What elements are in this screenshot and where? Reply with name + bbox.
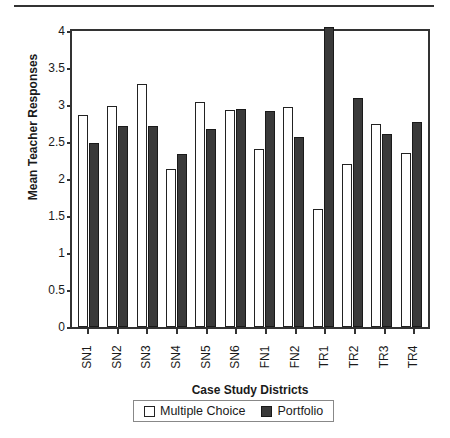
bar-sn2-pf xyxy=(118,126,128,327)
y-axis-tick-2.5: 2.5 xyxy=(48,136,72,148)
bar-group-sn1 xyxy=(74,31,103,327)
bar-group-fn2 xyxy=(279,31,308,327)
y-axis-tick-1: 1 xyxy=(58,247,72,259)
legend-swatch-white-square-icon xyxy=(144,406,155,417)
x-tick-cell-sn4: SN4 xyxy=(161,331,191,383)
x-axis-label-tr4: TR4 xyxy=(406,346,420,369)
x-axis-label-tr3: TR3 xyxy=(377,346,391,369)
x-tickmark-tr4 xyxy=(413,329,415,334)
x-tick-cell-sn5: SN5 xyxy=(191,331,221,383)
x-axis-label-sn5: SN5 xyxy=(199,345,213,368)
x-tickmark-fn2 xyxy=(295,329,297,334)
bar-group-tr3 xyxy=(367,31,396,327)
x-axis-label-sn6: SN6 xyxy=(228,345,242,368)
x-tick-cell-tr1: TR1 xyxy=(309,331,339,383)
y-axis-tick-3.5: 3.5 xyxy=(48,62,72,74)
bar-group-tr2 xyxy=(338,31,367,327)
top-divider-rule xyxy=(14,5,434,7)
x-tickmark-sn2 xyxy=(117,329,119,334)
x-tickmark-sn1 xyxy=(87,329,89,334)
bar-fn1-pf xyxy=(265,111,275,327)
x-tickmark-tr1 xyxy=(324,329,326,334)
legend-label-portfolio: Portfolio xyxy=(277,404,323,418)
y-axis-title: Mean Teacher Responses xyxy=(26,32,40,222)
x-axis-label-sn4: SN4 xyxy=(169,345,183,368)
x-tickmark-sn3 xyxy=(146,329,148,334)
bar-group-tr1 xyxy=(309,31,338,327)
chart-plot-area: 00.511.522.533.54 xyxy=(70,29,430,329)
x-tick-cell-tr4: TR4 xyxy=(398,331,428,383)
legend-swatch-dark-square-icon xyxy=(261,406,272,417)
bar-group-tr4 xyxy=(397,31,426,327)
y-axis-tick-4: 4 xyxy=(58,25,72,37)
x-tick-cell-sn3: SN3 xyxy=(131,331,161,383)
bar-group-sn3 xyxy=(133,31,162,327)
x-axis-label-sn1: SN1 xyxy=(80,345,94,368)
y-axis-tick-1.5: 1.5 xyxy=(48,210,72,222)
bar-tr1-pf xyxy=(324,27,334,327)
bar-fn2-mc xyxy=(283,107,293,327)
x-tick-cell-sn6: SN6 xyxy=(220,331,250,383)
bar-sn3-mc xyxy=(137,84,147,327)
x-tick-cell-sn2: SN2 xyxy=(102,331,132,383)
bar-tr3-mc xyxy=(371,124,381,327)
x-axis-label-sn3: SN3 xyxy=(139,345,153,368)
bar-sn5-pf xyxy=(206,129,216,327)
bar-tr1-mc xyxy=(313,209,323,327)
x-axis-label-fn1: FN1 xyxy=(258,346,272,369)
y-axis-tick-0.5: 0.5 xyxy=(48,284,72,296)
bar-group-sn6 xyxy=(221,31,250,327)
x-axis-label-tr1: TR1 xyxy=(317,346,331,369)
bar-tr2-pf xyxy=(353,98,363,327)
legend-item-portfolio: Portfolio xyxy=(261,404,323,418)
x-tickmark-fn1 xyxy=(265,329,267,334)
bar-tr2-mc xyxy=(342,164,352,327)
bar-group-sn4 xyxy=(162,31,191,327)
x-tickmark-sn4 xyxy=(176,329,178,334)
x-tick-cell-sn1: SN1 xyxy=(72,331,102,383)
bar-fn1-mc xyxy=(254,149,264,327)
x-axis-label-fn2: FN2 xyxy=(288,346,302,369)
bar-series-layer xyxy=(72,31,428,327)
x-tickmark-tr2 xyxy=(354,329,356,334)
x-tick-cell-fn2: FN2 xyxy=(280,331,310,383)
bar-sn3-pf xyxy=(148,126,158,327)
bar-sn1-mc xyxy=(78,115,88,327)
bar-sn4-pf xyxy=(177,154,187,327)
bar-tr4-pf xyxy=(412,122,422,327)
chart-legend: Multiple Choice Portfolio xyxy=(133,400,334,422)
x-tickmark-sn6 xyxy=(235,329,237,334)
x-axis-tick-labels: SN1SN2SN3SN4SN5SN6FN1FN2TR1TR2TR3TR4 xyxy=(70,331,430,383)
x-axis-title: Case Study Districts xyxy=(70,383,430,397)
bar-sn5-mc xyxy=(195,102,205,327)
x-axis-label-sn2: SN2 xyxy=(110,345,124,368)
x-tick-cell-tr2: TR2 xyxy=(339,331,369,383)
legend-label-multiple-choice: Multiple Choice xyxy=(160,404,245,418)
x-tick-cell-fn1: FN1 xyxy=(250,331,280,383)
bar-sn4-mc xyxy=(166,169,176,327)
bar-sn6-mc xyxy=(225,110,235,327)
x-tickmark-tr3 xyxy=(384,329,386,334)
bar-tr4-mc xyxy=(401,153,411,327)
x-tick-cell-tr3: TR3 xyxy=(369,331,399,383)
bar-sn1-pf xyxy=(89,143,99,327)
bar-fn2-pf xyxy=(294,137,304,327)
x-axis-label-tr2: TR2 xyxy=(347,346,361,369)
bar-sn2-mc xyxy=(107,106,117,327)
bar-group-sn2 xyxy=(103,31,132,327)
y-axis-tick-3: 3 xyxy=(58,99,72,111)
x-tickmark-sn5 xyxy=(206,329,208,334)
legend-item-multiple-choice: Multiple Choice xyxy=(144,404,245,418)
bar-sn6-pf xyxy=(236,109,246,327)
bar-group-sn5 xyxy=(191,31,220,327)
bar-group-fn1 xyxy=(250,31,279,327)
bar-tr3-pf xyxy=(382,134,392,327)
y-axis-tick-2: 2 xyxy=(58,173,72,185)
